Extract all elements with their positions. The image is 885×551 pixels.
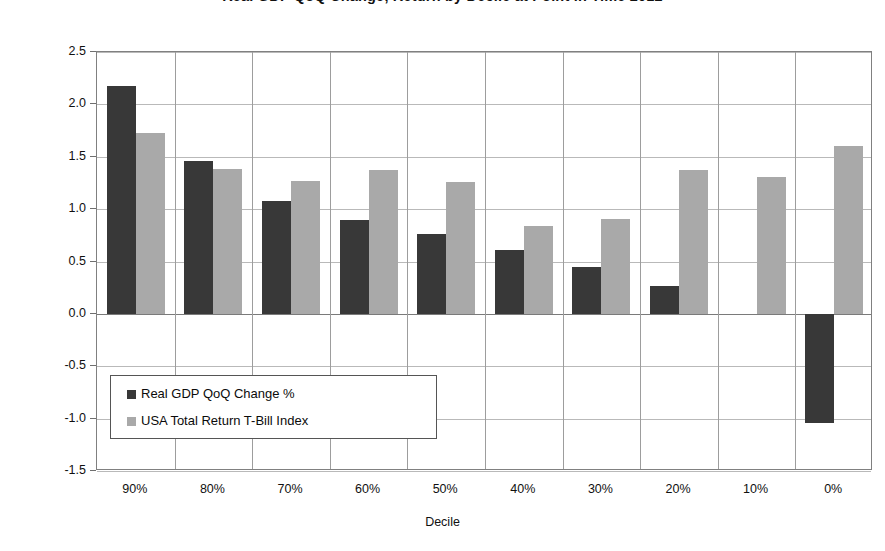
legend-swatch-icon xyxy=(127,417,136,426)
x-axis-label: 20% xyxy=(633,482,723,497)
y-axis-tick xyxy=(90,51,96,52)
bar-80pct-series-0 xyxy=(184,161,213,314)
bar-70pct-series-0 xyxy=(262,201,291,314)
y-axis-tick xyxy=(90,313,96,314)
x-axis-label: 30% xyxy=(555,482,645,497)
x-axis-label: 60% xyxy=(323,482,413,497)
y-gridline xyxy=(97,314,871,315)
x-axis-label: 80% xyxy=(167,482,257,497)
y-axis-label: -0.5 xyxy=(28,358,86,372)
y-axis-tick xyxy=(90,261,96,262)
y-axis-tick xyxy=(90,470,96,471)
bar-80pct-series-1 xyxy=(213,169,242,314)
x-axis-label: 90% xyxy=(90,482,180,497)
bar-40pct-series-0 xyxy=(495,250,524,314)
y-gridline xyxy=(97,52,871,53)
x-gridline xyxy=(563,52,564,469)
y-axis-label: 2.5 xyxy=(28,44,86,58)
bar-70pct-series-1 xyxy=(291,181,320,314)
bar-50pct-series-1 xyxy=(446,182,475,314)
chart-title: Real GDP QoQ Change, Return by Decile at… xyxy=(0,0,885,5)
x-axis-label: 70% xyxy=(245,482,335,497)
x-axis-label: 10% xyxy=(711,482,801,497)
x-gridline xyxy=(795,52,796,469)
bar-0pct-series-1 xyxy=(834,146,863,314)
legend-item-real-gdp: Real GDP QoQ Change % xyxy=(127,385,295,403)
bar-0pct-series-0 xyxy=(805,314,834,423)
y-gridline xyxy=(97,471,871,472)
x-axis-label: 0% xyxy=(788,482,878,497)
chart-container: Real GDP QoQ Change, Return by Decile at… xyxy=(0,0,885,551)
y-axis-label: 0.0 xyxy=(28,306,86,320)
legend-label: Real GDP QoQ Change % xyxy=(141,385,295,403)
y-axis-label: 1.5 xyxy=(28,149,86,163)
x-axis-title: Decile xyxy=(0,515,885,529)
x-gridline xyxy=(718,52,719,469)
legend-label: USA Total Return T-Bill Index xyxy=(141,412,308,430)
bar-50pct-series-0 xyxy=(417,234,446,314)
y-axis-tick xyxy=(90,156,96,157)
y-axis-tick xyxy=(90,365,96,366)
bar-60pct-series-0 xyxy=(340,220,369,314)
y-axis-label: -1.0 xyxy=(28,411,86,425)
y-axis-label: 0.5 xyxy=(28,254,86,268)
bar-30pct-series-0 xyxy=(572,267,601,314)
bar-40pct-series-1 xyxy=(524,226,553,314)
y-axis-tick xyxy=(90,208,96,209)
chart-legend: Real GDP QoQ Change % USA Total Return T… xyxy=(110,375,437,439)
y-axis-label: -1.5 xyxy=(28,463,86,477)
bar-60pct-series-1 xyxy=(369,170,398,314)
y-gridline xyxy=(97,366,871,367)
bar-90pct-series-1 xyxy=(136,133,165,314)
bar-20pct-series-0 xyxy=(650,286,679,314)
y-axis-tick xyxy=(90,418,96,419)
legend-item-tbill-index: USA Total Return T-Bill Index xyxy=(127,412,308,430)
x-gridline xyxy=(640,52,641,469)
bar-90pct-series-0 xyxy=(107,86,136,314)
y-gridline xyxy=(97,157,871,158)
x-axis-label: 50% xyxy=(400,482,490,497)
y-gridline xyxy=(97,104,871,105)
legend-swatch-icon xyxy=(127,390,136,399)
bar-20pct-series-1 xyxy=(679,170,708,314)
x-axis-label: 40% xyxy=(478,482,568,497)
y-axis-tick xyxy=(90,103,96,104)
x-gridline xyxy=(485,52,486,469)
y-axis-label: 1.0 xyxy=(28,201,86,215)
y-axis-label: 2.0 xyxy=(28,96,86,110)
bar-30pct-series-1 xyxy=(601,219,630,314)
bar-10pct-series-1 xyxy=(757,177,786,314)
